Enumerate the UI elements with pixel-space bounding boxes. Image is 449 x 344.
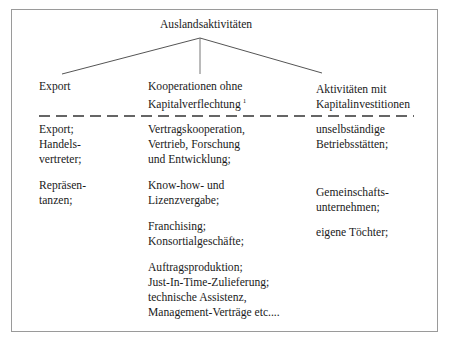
cooperation-item: Auftragsproduktion; xyxy=(148,260,243,275)
cooperation-item: Know-how- und xyxy=(148,178,224,193)
capital-item: Gemeinschafts- xyxy=(316,185,389,200)
capital-item: Betriebsstätten; xyxy=(316,137,388,152)
cooperation-item: Konsortialgeschäfte; xyxy=(148,234,244,249)
cooperation-item: technische Assistenz, xyxy=(148,290,247,305)
branch-export-label: Export xyxy=(39,79,71,94)
cooperation-item: Vertragskooperation, xyxy=(148,122,245,137)
export-item: Repräsen- xyxy=(39,178,86,193)
cooperation-item: Management-Verträge etc.... xyxy=(148,305,280,320)
export-item: vertreter; xyxy=(39,152,81,167)
branch-cooperation-label-line1: Kooperationen ohne xyxy=(148,79,242,94)
cooperation-item: Lizenzvergabe; xyxy=(148,193,219,208)
capital-item: unselbständige xyxy=(316,122,385,137)
root-node-label: Auslandsaktivitäten xyxy=(160,17,252,32)
branch-cooperation-label-line2: Kapitalverflechtung1 xyxy=(148,94,246,112)
capital-item: eigene Töchter; xyxy=(316,225,388,240)
export-item: Handels- xyxy=(39,137,81,152)
branch-cooperation-text: Kapitalverflechtung xyxy=(148,98,241,111)
footnote-marker: 1 xyxy=(243,97,247,105)
cooperation-item: Just-In-Time-Zulieferung; xyxy=(148,275,269,290)
branch-line-right xyxy=(200,38,322,73)
cooperation-item: Vertrieb, Forschung xyxy=(148,137,240,152)
cooperation-item: und Entwicklung; xyxy=(148,152,231,167)
branch-capital-label-line1: Aktivitäten mit xyxy=(316,82,387,97)
export-item: Export; xyxy=(39,122,74,137)
cooperation-item: Franchising; xyxy=(148,219,206,234)
branch-line-left xyxy=(62,38,200,74)
export-item: tanzen; xyxy=(39,193,72,208)
branch-capital-label-line2: Kapitalinvestitionen xyxy=(316,97,410,112)
capital-item: unternehmen; xyxy=(316,200,380,215)
